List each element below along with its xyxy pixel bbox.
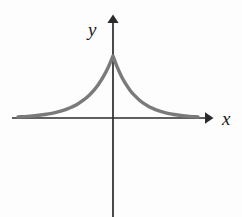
x-axis-label: x <box>221 108 231 129</box>
coordinate-plot-svg: y x <box>0 0 242 217</box>
plot-background <box>0 0 242 217</box>
y-axis-label: y <box>86 19 97 40</box>
figure-container: p y x <box>0 0 242 217</box>
